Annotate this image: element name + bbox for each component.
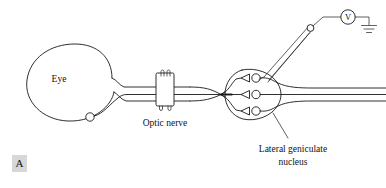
lgn-cell-body-icon — [252, 107, 260, 115]
synaptic-terminal-icon — [241, 74, 250, 82]
ground-wire — [355, 17, 369, 25]
optic-nerve-fan — [190, 78, 241, 111]
ground-icon — [355, 17, 376, 33]
lateral-geniculate-nucleus-group — [225, 69, 386, 120]
lgn-cell-body-icon — [252, 90, 260, 98]
figure-panel-a: Eye Optic nerve — [0, 0, 386, 188]
eye-label: Eye — [52, 74, 67, 84]
cuff-body — [156, 73, 174, 106]
lgn-label-line1: Lateral geniculate — [259, 144, 327, 154]
synaptic-terminal-icon — [241, 91, 250, 99]
ganglion-cell-axon — [94, 95, 190, 117]
lgn-leader-line — [273, 113, 288, 138]
panel-letter-badge: A — [12, 155, 27, 172]
electrode-filament — [269, 33, 310, 80]
stimulating-cuff-icon — [156, 70, 174, 111]
eye-outline — [27, 44, 114, 121]
lgn-label-line2: nucleus — [278, 157, 307, 167]
voltmeter-label: V — [345, 12, 352, 22]
eye-upper-axon — [112, 78, 190, 87]
lgn-cell-body-icon — [252, 74, 260, 82]
electrode-to-voltmeter-wire — [313, 17, 341, 26]
panel-letter-text: A — [16, 158, 24, 169]
eye-lower-axon — [114, 92, 190, 101]
synaptic-terminal-icon — [241, 107, 250, 115]
optic-nerve-label: Optic nerve — [143, 118, 188, 128]
microelectrode-icon — [259, 25, 314, 82]
neural-pathway-diagram: Eye Optic nerve — [0, 0, 386, 188]
cuff-tail-left — [160, 106, 163, 111]
ganglion-cell-body-icon — [86, 113, 94, 121]
voltmeter-icon: V — [341, 10, 355, 24]
cuff-tail-right — [168, 106, 171, 111]
electrode-shaft-upper — [264, 26, 309, 77]
